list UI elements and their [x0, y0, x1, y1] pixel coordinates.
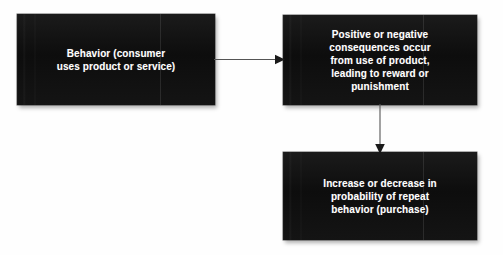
arrow-right-icon: [275, 55, 285, 64]
process-node-consequences[interactable]: Positive or negative consequences occur …: [283, 15, 477, 105]
diagram-canvas: Behavior (consumer uses product or servi…: [0, 0, 503, 255]
process-node-probability-label: Increase or decrease in probability of r…: [315, 177, 444, 216]
process-node-behavior-label: Behavior (consumer uses product or servi…: [49, 47, 184, 73]
connector-consequences-to-probability: [371, 104, 389, 154]
process-node-probability[interactable]: Increase or decrease in probability of r…: [283, 152, 477, 240]
connector-behavior-to-consequences: [214, 52, 285, 67]
arrow-down-icon: [375, 144, 385, 154]
process-node-behavior[interactable]: Behavior (consumer uses product or servi…: [17, 14, 215, 105]
process-node-consequences-label: Positive or negative consequences occur …: [321, 28, 438, 93]
